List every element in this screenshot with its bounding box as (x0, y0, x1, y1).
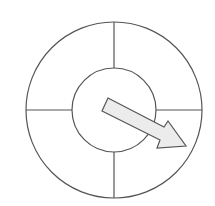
spinner-diagram (0, 0, 215, 206)
spinner-svg (0, 0, 215, 206)
